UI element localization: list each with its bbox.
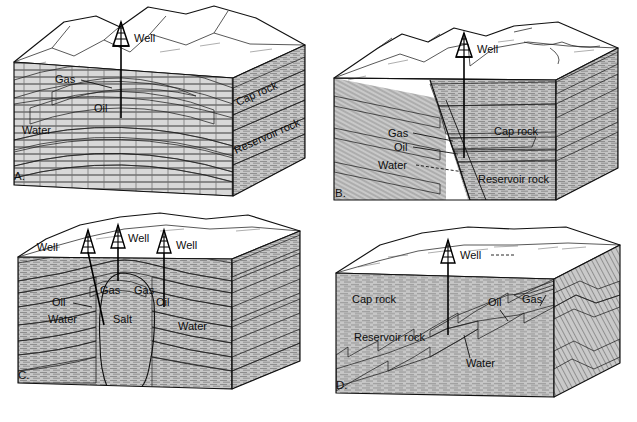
label-water: Water [466, 357, 495, 369]
label-well-left: Well [37, 241, 58, 253]
panel-b-fault: Well Gas Oil Water Cap rock Reservoir ro… [318, 0, 637, 211]
label-water: Water [378, 159, 407, 171]
label-gas: Gas [55, 73, 76, 85]
panel-letter-b: B. [335, 187, 346, 199]
label-well: Well [134, 32, 155, 44]
derrick-icon [113, 22, 129, 46]
label-well-right: Well [176, 239, 197, 251]
derrick-icon [441, 240, 455, 263]
panel-letter-a: A. [14, 170, 25, 182]
label-well: Well [460, 249, 481, 261]
label-oil-right: Oil [156, 296, 169, 308]
label-salt: Salt [113, 313, 132, 325]
label-gas-right: Gas [134, 284, 155, 296]
label-oil: Oil [488, 296, 501, 308]
label-oil: Oil [394, 141, 407, 153]
label-gas: Gas [388, 127, 409, 139]
side-face-strata [550, 241, 624, 403]
label-reservoir-rock: Reservoir rock [354, 331, 425, 343]
label-gas-left: Gas [100, 284, 121, 296]
label-well-center: Well [128, 232, 149, 244]
label-reservoir-rock: Reservoir rock [478, 173, 549, 185]
label-oil-left: Oil [52, 296, 65, 308]
petroleum-trap-figure: Well Gas Oil Water Cap rock Reservoir ro… [0, 0, 637, 422]
panel-letter-d: D. [336, 379, 348, 391]
label-water-left: Water [48, 313, 77, 325]
panel-d-stratigraphic: Well Cap rock Reservoir rock Oil Gas Wat… [318, 211, 637, 422]
label-well: Well [477, 43, 498, 55]
panel-letter-c: C. [18, 369, 30, 381]
panel-a-anticline: Well Gas Oil Water Cap rock Reservoir ro… [0, 0, 318, 211]
label-oil: Oil [94, 102, 107, 114]
derrick-icon [81, 230, 95, 253]
label-gas: Gas [522, 293, 543, 305]
derrick-icon [157, 230, 171, 253]
label-water: Water [22, 124, 51, 136]
side-face-strata [228, 227, 304, 393]
label-cap-rock: Cap rock [494, 125, 539, 137]
label-water-right: Water [178, 320, 207, 332]
label-cap-rock: Cap rock [352, 293, 397, 305]
derrick-icon [456, 33, 472, 57]
panel-c-salt-dome: Well Well Well Gas Gas Oil Oil Water Wat… [0, 211, 318, 422]
